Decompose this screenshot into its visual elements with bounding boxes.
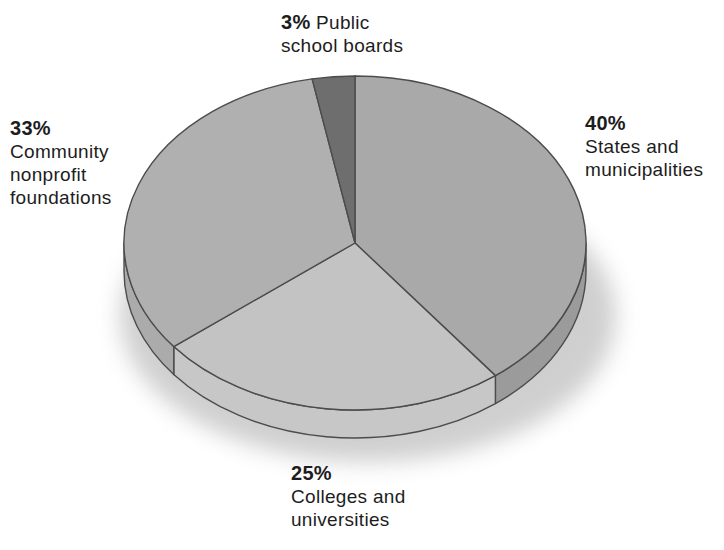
- label-community-nonprofit-foundations: 33% Community nonprofit foundations: [10, 117, 112, 209]
- label-public-school-boards: 3% Public school boards: [281, 11, 403, 57]
- pct-public-school-boards: 3%: [281, 11, 311, 33]
- label-line: 3% Public: [281, 11, 403, 34]
- label-text: Public: [316, 12, 370, 33]
- pct-states-and-municipalities: 40%: [585, 112, 703, 135]
- pie-chart-figure: 3% Public school boards 33% Community no…: [0, 0, 724, 550]
- pct-community-nonprofit-foundations: 33%: [10, 117, 112, 140]
- label-text: municipalities: [585, 158, 703, 181]
- label-text: nonprofit: [10, 163, 112, 186]
- label-text: school boards: [281, 34, 403, 57]
- label-text: foundations: [10, 186, 112, 209]
- label-text: Colleges and: [291, 485, 406, 508]
- pct-colleges-and-universities: 25%: [291, 462, 406, 485]
- label-text: States and: [585, 135, 703, 158]
- label-text: universities: [291, 508, 406, 531]
- label-colleges-and-universities: 25% Colleges and universities: [291, 462, 406, 531]
- label-states-and-municipalities: 40% States and municipalities: [585, 112, 703, 181]
- label-text: Community: [10, 140, 112, 163]
